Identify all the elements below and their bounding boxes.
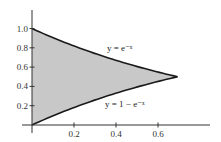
x-tick-label: 0.4 [110, 129, 122, 139]
y-tick-label: 1.0 [17, 24, 29, 34]
x-tick-label: 0.6 [152, 129, 164, 139]
x-tick-label: 0.2 [68, 129, 79, 139]
y-tick-label: 0.4 [17, 81, 29, 91]
shaded-region [32, 29, 178, 126]
label-top-curve: y = e⁻ˣ [107, 43, 133, 53]
region-between-curves-chart: 0.20.40.6 0.20.40.60.81.0 y = e⁻ˣ y = 1 … [0, 0, 221, 142]
label-bottom-curve: y = 1 − e⁻ˣ [105, 99, 145, 109]
y-tick-label: 0.8 [17, 43, 29, 53]
y-tick-label: 0.2 [17, 101, 28, 111]
y-tick-label: 0.6 [17, 62, 29, 72]
